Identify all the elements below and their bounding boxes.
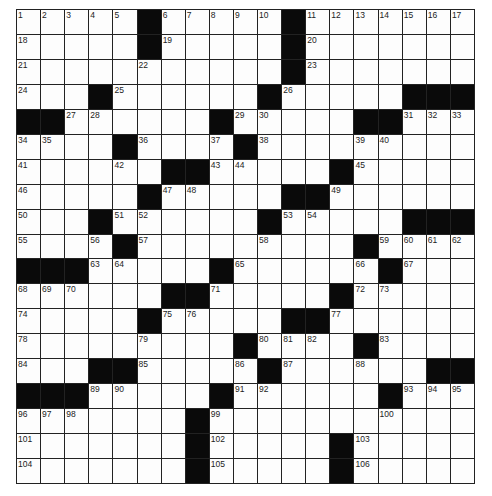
grid-cell[interactable]: 75 <box>162 309 185 333</box>
grid-cell[interactable]: 43 <box>210 160 233 184</box>
grid-cell[interactable] <box>427 309 450 333</box>
grid-cell[interactable] <box>210 309 233 333</box>
grid-cell[interactable] <box>403 160 426 184</box>
grid-cell[interactable] <box>113 35 136 59</box>
grid-cell[interactable] <box>258 160 281 184</box>
grid-cell[interactable] <box>186 35 209 59</box>
grid-cell[interactable] <box>113 434 136 458</box>
grid-cell[interactable] <box>451 185 474 209</box>
grid-cell[interactable] <box>451 135 474 159</box>
grid-cell[interactable] <box>282 409 305 433</box>
grid-cell[interactable] <box>282 235 305 259</box>
grid-cell[interactable] <box>138 459 161 483</box>
grid-cell[interactable] <box>234 309 257 333</box>
grid-cell[interactable] <box>113 459 136 483</box>
grid-cell[interactable]: 36 <box>138 135 161 159</box>
grid-cell[interactable]: 14 <box>379 10 402 34</box>
grid-cell[interactable] <box>113 60 136 84</box>
grid-cell[interactable] <box>451 259 474 283</box>
grid-cell[interactable]: 104 <box>17 459 40 483</box>
grid-cell[interactable] <box>451 409 474 433</box>
grid-cell[interactable]: 40 <box>379 135 402 159</box>
grid-cell[interactable] <box>186 259 209 283</box>
grid-cell[interactable] <box>427 459 450 483</box>
grid-cell[interactable] <box>379 35 402 59</box>
grid-cell[interactable]: 57 <box>138 235 161 259</box>
grid-cell[interactable] <box>138 409 161 433</box>
grid-cell[interactable] <box>354 185 377 209</box>
grid-cell[interactable]: 52 <box>138 210 161 234</box>
grid-cell[interactable] <box>210 185 233 209</box>
grid-cell[interactable] <box>306 259 329 283</box>
grid-cell[interactable]: 6 <box>162 10 185 34</box>
grid-cell[interactable] <box>306 110 329 134</box>
grid-cell[interactable] <box>354 210 377 234</box>
grid-cell[interactable] <box>138 434 161 458</box>
grid-cell[interactable] <box>451 334 474 358</box>
grid-cell[interactable]: 81 <box>282 334 305 358</box>
grid-cell[interactable]: 31 <box>403 110 426 134</box>
grid-cell[interactable] <box>65 85 88 109</box>
grid-cell[interactable] <box>258 409 281 433</box>
grid-cell[interactable]: 24 <box>17 85 40 109</box>
grid-cell[interactable] <box>354 384 377 408</box>
grid-cell[interactable] <box>113 110 136 134</box>
grid-cell[interactable]: 62 <box>451 235 474 259</box>
grid-cell[interactable] <box>113 185 136 209</box>
grid-cell[interactable] <box>186 384 209 408</box>
grid-cell[interactable] <box>258 434 281 458</box>
grid-cell[interactable]: 8 <box>210 10 233 34</box>
grid-cell[interactable]: 68 <box>17 284 40 308</box>
grid-cell[interactable] <box>330 384 353 408</box>
grid-cell[interactable] <box>403 284 426 308</box>
grid-cell[interactable] <box>258 309 281 333</box>
grid-cell[interactable]: 10 <box>258 10 281 34</box>
grid-cell[interactable] <box>330 135 353 159</box>
grid-cell[interactable] <box>403 409 426 433</box>
grid-cell[interactable]: 29 <box>234 110 257 134</box>
grid-cell[interactable] <box>330 334 353 358</box>
grid-cell[interactable]: 95 <box>451 384 474 408</box>
grid-cell[interactable] <box>282 160 305 184</box>
grid-cell[interactable]: 67 <box>403 259 426 283</box>
grid-cell[interactable] <box>330 259 353 283</box>
grid-cell[interactable] <box>186 60 209 84</box>
grid-cell[interactable] <box>65 235 88 259</box>
grid-cell[interactable] <box>65 35 88 59</box>
grid-cell[interactable]: 72 <box>354 284 377 308</box>
grid-cell[interactable]: 96 <box>17 409 40 433</box>
grid-cell[interactable]: 69 <box>41 284 64 308</box>
grid-cell[interactable] <box>234 235 257 259</box>
grid-cell[interactable] <box>379 359 402 383</box>
grid-cell[interactable] <box>427 284 450 308</box>
grid-cell[interactable] <box>210 60 233 84</box>
grid-cell[interactable] <box>379 85 402 109</box>
grid-cell[interactable] <box>403 459 426 483</box>
grid-cell[interactable] <box>379 160 402 184</box>
grid-cell[interactable] <box>234 284 257 308</box>
grid-cell[interactable]: 84 <box>17 359 40 383</box>
grid-cell[interactable] <box>330 110 353 134</box>
grid-cell[interactable] <box>65 434 88 458</box>
grid-cell[interactable]: 101 <box>17 434 40 458</box>
grid-cell[interactable] <box>282 284 305 308</box>
grid-cell[interactable] <box>41 459 64 483</box>
grid-cell[interactable] <box>138 284 161 308</box>
grid-cell[interactable]: 11 <box>306 10 329 34</box>
grid-cell[interactable]: 50 <box>17 210 40 234</box>
grid-cell[interactable] <box>89 334 112 358</box>
grid-cell[interactable] <box>427 160 450 184</box>
grid-cell[interactable]: 87 <box>282 359 305 383</box>
grid-cell[interactable] <box>186 85 209 109</box>
grid-cell[interactable] <box>162 235 185 259</box>
grid-cell[interactable]: 79 <box>138 334 161 358</box>
grid-cell[interactable]: 76 <box>186 309 209 333</box>
grid-cell[interactable]: 21 <box>17 60 40 84</box>
grid-cell[interactable]: 35 <box>41 135 64 159</box>
grid-cell[interactable] <box>451 434 474 458</box>
grid-cell[interactable] <box>138 384 161 408</box>
grid-cell[interactable] <box>354 60 377 84</box>
grid-cell[interactable] <box>282 259 305 283</box>
grid-cell[interactable] <box>65 185 88 209</box>
grid-cell[interactable] <box>234 185 257 209</box>
